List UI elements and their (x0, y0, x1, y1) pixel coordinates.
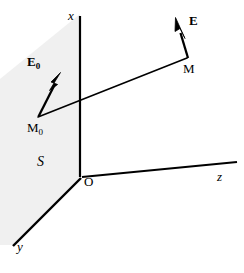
plane-label-s: S (37, 155, 44, 169)
axis-label-x: x (68, 9, 74, 22)
vector-label-e0-base: E (27, 54, 36, 69)
point-label-m0-subscript: 0 (39, 127, 44, 137)
vector-label-e0: E0 (27, 55, 40, 68)
vector-label-e0-subscript: 0 (36, 61, 41, 71)
point-label-m: M (183, 62, 195, 75)
axis-label-y: y (17, 240, 23, 253)
diagram-svg (0, 0, 244, 273)
vector-label-e: E (189, 14, 198, 27)
origin-label: O (84, 175, 93, 188)
point-label-m0: M0 (27, 121, 43, 134)
figure-canvas: x y z O S M0 M E0 E (0, 0, 244, 273)
vector-e-arrowhead-icon (175, 18, 185, 39)
axis-label-z: z (217, 170, 222, 183)
z-axis-line (82, 162, 237, 177)
point-label-m0-base: M (27, 120, 39, 135)
